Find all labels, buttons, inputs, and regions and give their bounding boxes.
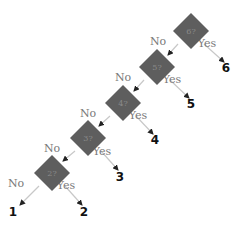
leaf-5: 5 (187, 97, 195, 111)
edge-label-no: No (44, 142, 61, 155)
leaf-1: 1 (9, 205, 17, 219)
leaf-2: 2 (80, 205, 88, 219)
edge-q5-q4 (134, 80, 144, 91)
edge-q6-q5 (168, 44, 178, 55)
node-label: 3? (83, 134, 92, 143)
leaf-6: 6 (222, 61, 230, 75)
node-label: 4? (118, 99, 127, 108)
leaf-3: 3 (116, 170, 124, 184)
edge-label-no: No (150, 35, 167, 48)
edge-q3-q2 (63, 151, 75, 161)
node-label: 2? (47, 169, 56, 178)
leaf-4: 4 (151, 133, 159, 147)
node-label: 5? (152, 63, 161, 72)
nodes-layer: 6?5?4?3?2? (34, 13, 209, 191)
edge-label-no: No (80, 107, 97, 120)
decision-tree-diagram: NoYesNoYesNoYesNoYesNoYes 6?5?4?3?2? 654… (0, 0, 245, 229)
edge-q4-q3 (99, 116, 110, 126)
node-label: 6? (186, 27, 195, 36)
leaves-layer: 654321 (9, 61, 230, 219)
edge-label-no: No (8, 177, 25, 190)
edge-label-no: No (115, 71, 132, 84)
